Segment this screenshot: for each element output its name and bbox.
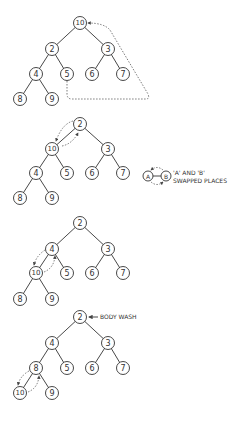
heap-node-value: 10 xyxy=(76,19,85,27)
heap-node: 8 xyxy=(14,192,27,205)
heap-node-value: 7 xyxy=(120,364,125,373)
heap-node: 4 xyxy=(46,243,59,256)
heap-node-value: 6 xyxy=(89,70,94,79)
heap-node: 4 xyxy=(30,68,43,81)
swap-arrow-up xyxy=(62,133,78,146)
heap-node-value: 3 xyxy=(105,145,110,154)
heap-node: 7 xyxy=(117,167,130,180)
heap-node: 10 xyxy=(46,143,59,156)
heap-node-value: 9 xyxy=(49,95,54,104)
heap-node-value: 5 xyxy=(64,169,69,178)
heap-node-value: 9 xyxy=(49,389,54,398)
legend-line-2: SWAPPED PLACES xyxy=(173,177,227,184)
heap-node: 4 xyxy=(46,337,59,350)
heap-node: 5 xyxy=(61,68,74,81)
heap-node-value: 9 xyxy=(49,194,54,203)
heap-node: 6 xyxy=(86,167,99,180)
heap-node: 6 xyxy=(86,362,99,375)
heap-node-value: 4 xyxy=(49,339,54,348)
heap-node-value: 2 xyxy=(77,120,82,129)
heap-node: 5 xyxy=(61,267,74,280)
heap-node: 8 xyxy=(14,93,27,106)
heap-node-value: 2 xyxy=(77,219,82,228)
heap-node: 9 xyxy=(46,192,59,205)
heap-node: 3 xyxy=(102,337,115,350)
heap-node: 5 xyxy=(61,167,74,180)
heap-node: 8 xyxy=(14,293,27,306)
heap-node: 6 xyxy=(86,267,99,280)
heap-node: 7 xyxy=(117,267,130,280)
heap-node-value: 4 xyxy=(49,245,54,254)
heap-node-value: 2 xyxy=(49,45,54,54)
heap-node: 2 xyxy=(74,118,87,131)
heap-node: 2 xyxy=(74,217,87,230)
heap-node-value: 2 xyxy=(77,313,82,322)
heap-node-value: 8 xyxy=(17,295,22,304)
heap-node-value: 10 xyxy=(16,389,25,397)
heap-node-value: 7 xyxy=(120,70,125,79)
heap-node: 9 xyxy=(46,387,59,400)
heap-node: 2 xyxy=(46,43,59,56)
heap-node: 10 xyxy=(74,17,87,30)
move-arrow-last-to-root xyxy=(67,23,149,99)
heap-node-value: 8 xyxy=(33,364,38,373)
tree-nodes: 1023456789210345678924310567892438567109 xyxy=(14,17,130,400)
heap-node-value: 3 xyxy=(105,339,110,348)
heap-node-value: 6 xyxy=(89,364,94,373)
heap-node-value: 10 xyxy=(48,145,57,153)
heap-node-value: 6 xyxy=(89,269,94,278)
swap-legend: A B 'A' AND 'B' SWAPPED PLACES xyxy=(143,168,227,185)
heap-node: 9 xyxy=(46,293,59,306)
heap-node: 4 xyxy=(30,167,43,180)
heap-node-value: 9 xyxy=(49,295,54,304)
legend-node-b-label: B xyxy=(164,173,168,180)
heap-node-value: 4 xyxy=(33,70,38,79)
heap-node: 3 xyxy=(102,43,115,56)
heap-node: 2 xyxy=(74,311,87,324)
legend-node-b: B xyxy=(161,171,171,181)
heap-node: 8 xyxy=(30,362,43,375)
heap-node-value: 5 xyxy=(64,269,69,278)
heap-node-value: 4 xyxy=(33,169,38,178)
body-wash-label: BODY WASH xyxy=(100,313,137,320)
heap-node: 9 xyxy=(46,93,59,106)
heap-node-value: 5 xyxy=(64,70,69,79)
heap-node-value: 8 xyxy=(17,194,22,203)
heap-node-value: 10 xyxy=(32,269,41,277)
heap-node: 6 xyxy=(86,68,99,81)
body-wash-annotation: BODY WASH xyxy=(89,313,137,320)
heap-node-value: 3 xyxy=(105,45,110,54)
heap-diagram: 1023456789210345678924310567892438567109… xyxy=(0,0,240,421)
heap-node-value: 7 xyxy=(120,169,125,178)
heap-node-value: 8 xyxy=(17,95,22,104)
heap-node: 3 xyxy=(102,143,115,156)
heap-node-value: 3 xyxy=(105,245,110,254)
heap-node-value: 7 xyxy=(120,269,125,278)
heap-node: 10 xyxy=(30,267,43,280)
heap-node: 3 xyxy=(102,243,115,256)
heap-node-value: 6 xyxy=(89,169,94,178)
heap-node: 7 xyxy=(117,362,130,375)
heap-node: 5 xyxy=(61,362,74,375)
swap-arrow-down xyxy=(18,371,29,385)
heap-node: 7 xyxy=(117,68,130,81)
legend-node-a: A xyxy=(143,171,153,181)
legend-line-1: 'A' AND 'B' xyxy=(173,169,205,176)
heap-node-value: 5 xyxy=(64,364,69,373)
heap-node: 10 xyxy=(14,387,27,400)
